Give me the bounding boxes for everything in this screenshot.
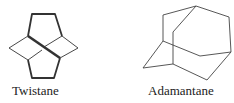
- adamantane-label: Adamantane: [148, 83, 214, 99]
- twistane-structure: [9, 14, 78, 78]
- twistane-label: Twistane: [12, 83, 59, 99]
- adamantane-structure: [143, 6, 231, 80]
